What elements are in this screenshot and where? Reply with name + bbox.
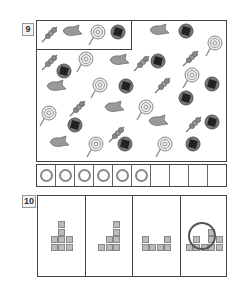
block — [157, 244, 164, 251]
answer-cell-row — [36, 164, 227, 187]
block — [149, 244, 156, 251]
lollipop-icon — [37, 105, 57, 131]
block — [98, 244, 105, 251]
circle-mark-icon — [116, 169, 129, 182]
circle-mark-icon — [97, 169, 110, 182]
block — [113, 244, 120, 251]
question-10-label: 10 — [22, 195, 36, 208]
circle-mark-icon — [78, 169, 91, 182]
block — [58, 244, 65, 251]
fish-cake-icon — [108, 53, 130, 71]
figure-panels — [37, 195, 227, 277]
block — [106, 244, 113, 251]
rice-cracker-icon — [204, 114, 220, 134]
figure-panel[interactable] — [38, 196, 86, 276]
fish-cake-icon — [148, 23, 170, 41]
block — [51, 244, 58, 251]
rice-cracker-icon — [178, 90, 194, 110]
block — [58, 236, 65, 243]
rice-cracker-icon — [178, 23, 194, 43]
dango-icon — [153, 75, 173, 99]
block — [66, 244, 73, 251]
answer-cell[interactable] — [151, 165, 170, 186]
block — [216, 244, 223, 251]
answer-cell[interactable] — [170, 165, 189, 186]
fish-cake-icon — [48, 135, 70, 153]
rice-cracker-icon — [110, 24, 126, 44]
answer-cell[interactable] — [113, 165, 132, 186]
answer-cell[interactable] — [189, 165, 208, 186]
fish-cake-icon — [61, 24, 83, 42]
answer-circle-mark — [188, 222, 216, 250]
circle-mark-icon — [59, 169, 72, 182]
rice-cracker-icon — [118, 78, 134, 98]
fish-cake-icon — [147, 114, 169, 132]
answer-cell[interactable] — [37, 165, 56, 186]
block — [164, 244, 171, 251]
block — [164, 236, 171, 243]
block — [106, 236, 113, 243]
circle-mark-icon — [40, 169, 53, 182]
lollipop-icon — [153, 136, 173, 162]
answer-cell[interactable] — [208, 165, 226, 186]
block — [51, 236, 58, 243]
block — [142, 244, 149, 251]
rice-cracker-icon — [204, 76, 220, 96]
dango-icon — [40, 24, 60, 48]
rice-cracker-icon — [150, 53, 166, 73]
dango-icon — [184, 114, 204, 138]
fish-cake-icon — [103, 100, 125, 118]
question-9-label: 9 — [22, 23, 34, 36]
block — [66, 236, 73, 243]
figure-panel[interactable] — [181, 196, 229, 276]
figure-panel[interactable] — [86, 196, 134, 276]
block — [113, 236, 120, 243]
figure-panel[interactable] — [133, 196, 181, 276]
answer-cell[interactable] — [75, 165, 94, 186]
block — [113, 221, 120, 228]
block — [113, 229, 120, 236]
lollipop-icon — [84, 136, 104, 162]
lollipop-icon — [203, 35, 223, 61]
circle-mark-icon — [135, 169, 148, 182]
answer-cell[interactable] — [56, 165, 75, 186]
lollipop-icon — [86, 24, 106, 50]
dango-icon — [132, 53, 152, 77]
lollipop-icon — [74, 51, 94, 77]
rice-cracker-icon — [185, 136, 201, 156]
block — [142, 236, 149, 243]
block — [216, 236, 223, 243]
block — [58, 221, 65, 228]
rice-cracker-icon — [67, 117, 83, 137]
answer-cell[interactable] — [132, 165, 151, 186]
rice-cracker-icon — [117, 136, 133, 156]
answer-cell[interactable] — [94, 165, 113, 186]
fish-cake-icon — [45, 79, 67, 97]
block — [58, 229, 65, 236]
